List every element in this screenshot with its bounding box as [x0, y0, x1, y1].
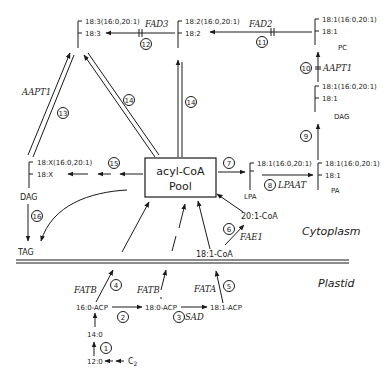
step-12-label: 12: [142, 41, 151, 49]
step-11-label: 11: [258, 39, 267, 47]
fatb-16-0-reaction: FATB 4: [73, 270, 122, 302]
step-10-label: 10: [302, 65, 311, 73]
lpa-name-label: LPA: [244, 193, 257, 201]
aapt1-right-enzyme-label: AAPT1: [322, 63, 352, 73]
c14-0-label: 14:0: [87, 331, 103, 339]
step-13-label: 13: [59, 110, 68, 118]
lpa-sn1-label: 18:1(16:0,20:1): [257, 160, 312, 168]
sad-reaction: 3 SAD: [174, 307, 208, 323]
pc-18-3-sn1-label: 18:3(16:0,20:1): [85, 18, 140, 26]
pc-sn1-label: 18:1(16:0,20:1): [322, 16, 377, 24]
tag-label: TAG: [17, 248, 34, 257]
aapt1-left-reaction: AAPT1 13: [21, 53, 74, 157]
pa-name-label: PA: [331, 187, 340, 195]
pool-label-line1: acyl-CoA: [156, 165, 205, 178]
plastid-export-arrows: [122, 202, 185, 252]
pool-to-lpa-reaction: 7: [218, 158, 245, 173]
step-7-label: 7: [227, 160, 231, 168]
aapt1-left-enzyme-label: AAPT1: [21, 87, 51, 97]
lpaat-enzyme-label: LPAAT: [277, 180, 307, 190]
elongation-16-to-18-reaction: 2: [112, 307, 142, 323]
plastid-label: Plastid: [318, 277, 356, 290]
pc18-2-to-pool-reaction: 14: [178, 60, 197, 157]
pc-sn2-label: 18:1: [322, 28, 338, 36]
c18-1-coa-label: 18:1-CoA: [196, 250, 233, 259]
dag-left-sn1-label: 18:X(16:0,20:1): [37, 159, 92, 167]
dag-right-sn2-label: 18:1: [322, 95, 338, 103]
c12-0-label: 12:0: [87, 358, 103, 366]
c2-label: C2: [128, 357, 138, 367]
step-4-label: 4: [114, 282, 119, 290]
c16-0-acp-label: 16:0-ACP: [76, 304, 108, 312]
elongation-12-to-14-reaction: 1: [94, 342, 112, 356]
step-1-label: 1: [104, 345, 108, 353]
sad-enzyme-label: SAD: [185, 312, 204, 322]
step-9-label: 9: [304, 133, 308, 141]
plastid-envelope: [16, 260, 349, 263]
step-3-label: 3: [177, 314, 181, 322]
fatb-2-enzyme-label: FATB: [136, 285, 160, 295]
fae1-reaction: 6 FAE1: [224, 224, 263, 246]
pa-sn1-label: 18:1(16:0,20:1): [325, 160, 380, 168]
lpaat-reaction: 8 LPAAT: [262, 175, 313, 191]
fad3-enzyme-label: FAD3: [144, 19, 169, 29]
step-15-label: 15: [110, 160, 119, 168]
aapt1-right-reaction: 10 AAPT1: [301, 52, 353, 82]
pc-name-label: PC: [338, 44, 347, 52]
dag-right-name-label: DAG: [334, 113, 349, 121]
dag-right-sn1-label: 18:1(16:0,20:1): [322, 83, 377, 91]
pc18-3-to-pool-reaction: 14: [84, 53, 159, 157]
pa-to-dag-reaction: 9: [301, 124, 319, 160]
acyl-coa-pool: acyl-CoA Pool: [145, 158, 216, 197]
step-14b-label: 14: [187, 99, 196, 107]
pa-species: 18:1(16:0,20:1) 18:1 PA: [318, 160, 380, 195]
step-16-label: 16: [33, 213, 42, 221]
c18-0-acp-label: 18:0-ACP: [145, 304, 177, 312]
step-14a-label: 14: [125, 97, 134, 105]
dag-right-species: 18:1(16:0,20:1) 18:1 DAG: [315, 83, 377, 121]
step-5-label: 5: [227, 283, 231, 291]
dag-left-sn2-label: 18:X: [37, 171, 53, 179]
c18-1-acp-label: 18:1-ACP: [210, 304, 242, 312]
c20-1-coa-label: 20:1-CoA: [241, 212, 278, 221]
cytoplasm-label: Cytoplasm: [302, 225, 360, 238]
step-8-label: 8: [268, 182, 272, 190]
fata-enzyme-label: FATA: [193, 284, 216, 294]
pa-sn2-label: 18:1: [325, 172, 341, 180]
pc-18-2-species: 18:2(16:0,20:1) 18:2: [178, 18, 240, 48]
fae1-enzyme-label: FAE1: [239, 232, 263, 242]
pool-label-line2: Pool: [169, 180, 192, 193]
pc-18-3-sn2-label: 18:3: [85, 30, 101, 38]
step-2-label: 2: [121, 314, 125, 322]
dag-to-tag-reaction: 16: [28, 190, 127, 241]
step-6-label: 6: [227, 226, 232, 234]
dag-left-species: 18:X(16:0,20:1) 18:X DAG: [20, 159, 92, 202]
fatb-1-enzyme-label: FATB: [73, 285, 97, 295]
pc-18-2-sn1-label: 18:2(16:0,20:1): [185, 18, 240, 26]
fatb-18-0-reaction: FATB: [136, 270, 166, 299]
fata-reaction: FATA 5: [193, 271, 235, 303]
fad2-enzyme-label: FAD2: [248, 19, 273, 29]
pc-18-2-sn2-label: 18:2: [185, 30, 201, 38]
lipid-pathway-diagram: 18:3(16:0,20:1) 18:3 18:2(16:0,20:1) 18:…: [0, 0, 391, 385]
dag-left-name-label: DAG: [20, 193, 38, 202]
